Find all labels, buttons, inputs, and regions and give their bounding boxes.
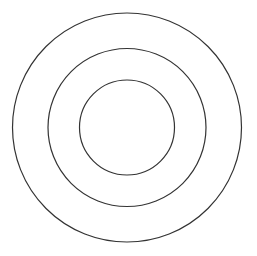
outer-circle — [13, 13, 242, 242]
middle-circle — [48, 49, 206, 207]
concentric-circles-diagram — [0, 0, 257, 256]
inner-circle — [80, 80, 175, 175]
